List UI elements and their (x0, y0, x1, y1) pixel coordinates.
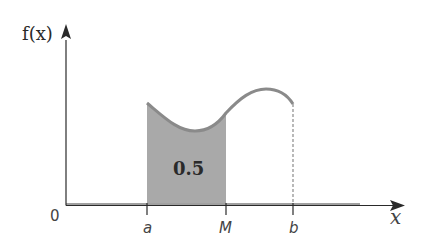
tick-label-M: M (219, 219, 232, 237)
origin-label: 0 (50, 207, 60, 225)
y-axis-arrow-icon (61, 24, 71, 39)
density-diagram: f(x) x 0 a M b 0.5 (0, 0, 427, 247)
y-axis-label: f(x) (22, 23, 53, 44)
x-axis-label: x (390, 205, 401, 229)
tick-label-b: b (289, 219, 299, 237)
tick-label-a: a (143, 219, 152, 237)
shaded-area-label: 0.5 (173, 158, 204, 179)
shaded-area (147, 103, 226, 205)
